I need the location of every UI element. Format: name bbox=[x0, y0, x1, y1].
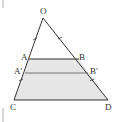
label-o: O bbox=[40, 6, 47, 16]
geometry-diagram: O A B A' B' C D bbox=[0, 0, 119, 122]
label-d: D bbox=[105, 102, 112, 112]
label-c: C bbox=[10, 102, 16, 112]
label-b-prime: B' bbox=[90, 66, 98, 76]
label-a-prime: A' bbox=[14, 66, 22, 76]
label-b: B bbox=[79, 52, 85, 62]
label-a: A bbox=[21, 52, 28, 62]
